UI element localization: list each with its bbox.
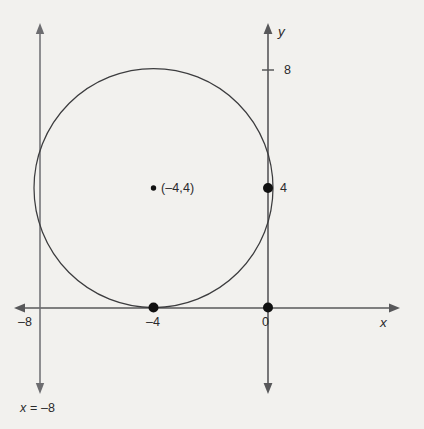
point-label-center: (–4,4) bbox=[161, 182, 194, 195]
x-axis-label: x bbox=[380, 316, 387, 330]
point-0-4 bbox=[263, 183, 273, 193]
y-axis-top-arrow-icon bbox=[264, 23, 273, 34]
point-minus4-0 bbox=[149, 303, 159, 313]
x-tick-label-minus-4: –4 bbox=[146, 316, 160, 329]
math-figure-canvas: y x 8 4 (–4,4) –8 –4 0 x = –8 bbox=[0, 0, 424, 429]
x-tick-label-minus-8: –8 bbox=[18, 316, 32, 329]
x-tick-label-0: 0 bbox=[262, 316, 269, 329]
x-axis-right-arrow-icon bbox=[389, 304, 400, 313]
x-axis-left-arrow-icon bbox=[14, 304, 25, 313]
y-tick-label-8: 8 bbox=[284, 64, 291, 77]
vertical-line-equation-label: x = –8 bbox=[20, 402, 55, 415]
y-axis-bottom-arrow-icon bbox=[264, 383, 273, 394]
vertical-line-bottom-arrow-icon bbox=[36, 383, 44, 394]
y-axis-label: y bbox=[278, 25, 285, 39]
y-tick-label-4: 4 bbox=[280, 182, 287, 195]
coordinate-plane-svg bbox=[0, 0, 424, 429]
vertical-line-top-arrow-icon bbox=[36, 23, 44, 34]
point-origin bbox=[263, 303, 273, 313]
vertical-line-equation-value: = –8 bbox=[26, 401, 55, 415]
point-center-minus4-4 bbox=[151, 185, 156, 190]
